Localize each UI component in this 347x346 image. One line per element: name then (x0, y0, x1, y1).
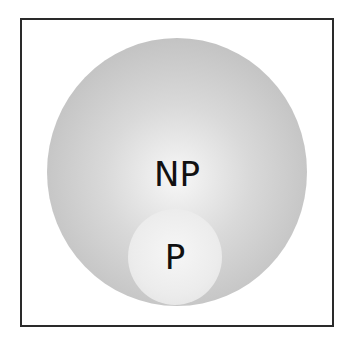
p-label: P (135, 240, 215, 274)
np-label: NP (137, 157, 217, 191)
